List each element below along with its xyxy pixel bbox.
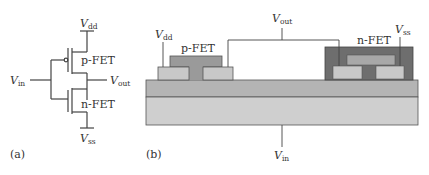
nfet-drain-contact: [376, 66, 404, 79]
panel-a-caption: (a): [10, 148, 25, 161]
nfet-source-contact: [333, 66, 362, 79]
schematic-nfet-label: n-FET: [81, 98, 115, 111]
inverter-schematic: [30, 31, 107, 128]
schematic-vdd-label: Vdd: [80, 17, 98, 31]
pfet-bubble: [64, 58, 68, 62]
pfet-source-contact: [158, 67, 189, 80]
device-vout-label: Vout: [272, 12, 292, 26]
device-pfet-label: p-FET: [181, 42, 215, 55]
device-vdd-label: Vdd: [155, 28, 173, 42]
nfet-gate-block: [347, 55, 395, 65]
cmos-inverter-figure: Vdd p-FET Vin Vout n-FET Vss (a) Vdd p-F…: [0, 0, 429, 175]
substrate-gate-layer: [146, 97, 418, 125]
panel-b-caption: (b): [146, 148, 162, 161]
device-vin-label: Vin: [274, 149, 289, 163]
pfet-gate-block: [170, 56, 222, 67]
schematic-vss-label: Vss: [80, 132, 96, 146]
pfet-drain-contact: [203, 67, 233, 80]
schematic-vin-label: Vin: [10, 74, 25, 88]
schematic-pfet-label: p-FET: [81, 54, 115, 67]
dielectric-layer: [146, 80, 418, 97]
pfet-gate-stem: [189, 66, 203, 80]
device-vss-label: Vss: [395, 23, 411, 37]
device-nfet-label: n-FET: [357, 34, 391, 47]
schematic-vout-label: Vout: [110, 74, 130, 88]
vout-interconnect: [228, 40, 339, 67]
